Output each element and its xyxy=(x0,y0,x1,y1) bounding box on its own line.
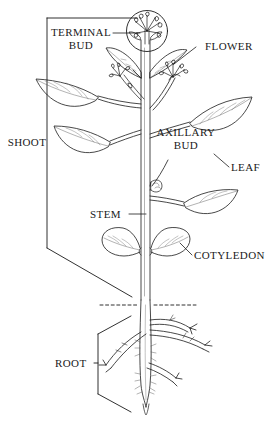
main-stem xyxy=(141,40,150,300)
leaf-left-lower xyxy=(54,126,110,153)
taproot-main xyxy=(140,300,151,415)
label-root: ROOT xyxy=(55,357,87,369)
branch-left-upper xyxy=(98,96,141,108)
label-axillary-bud-line2: BUD xyxy=(153,139,219,152)
cotyledon-left xyxy=(102,228,141,256)
label-axillary-bud: AXILLARY BUD xyxy=(153,126,219,151)
leader-axillary-bud xyxy=(152,160,168,186)
label-axillary-bud-line1: AXILLARY xyxy=(153,126,219,139)
flower-head-right xyxy=(159,60,188,80)
label-terminal-bud-line1: TERMINAL xyxy=(48,26,114,39)
lateral-root-right-long xyxy=(150,330,212,352)
label-flower: FLOWER xyxy=(205,40,253,52)
label-leaf: LEAF xyxy=(231,161,260,173)
shoot-bracket xyxy=(47,18,137,297)
label-shoot: SHOOT xyxy=(7,136,47,148)
plant-illustration xyxy=(0,0,273,427)
label-terminal-bud: TERMINAL BUD xyxy=(48,26,114,51)
branch-left-lower xyxy=(110,130,141,145)
plant-anatomy-diagram: TERMINAL BUD FLOWER SHOOT AXILLARY BUD L… xyxy=(0,0,273,427)
leader-leaf xyxy=(214,154,229,167)
cotyledon-right xyxy=(150,227,190,256)
label-stem: STEM xyxy=(90,208,121,220)
branch-right-mid xyxy=(150,196,184,206)
lateral-root-left-long xyxy=(99,332,146,372)
leaf-right-mid xyxy=(184,190,238,214)
lateral-root-upper-right xyxy=(150,315,197,334)
leaf-left-large xyxy=(36,79,98,106)
terminal-bud-flowers xyxy=(129,12,162,44)
label-cotyledon: COTYLEDON xyxy=(194,249,265,261)
branch-right-flower xyxy=(150,76,175,110)
label-terminal-bud-line2: BUD xyxy=(48,39,114,52)
root-bracket xyxy=(94,316,131,412)
leaf-upper-left xyxy=(106,48,141,78)
